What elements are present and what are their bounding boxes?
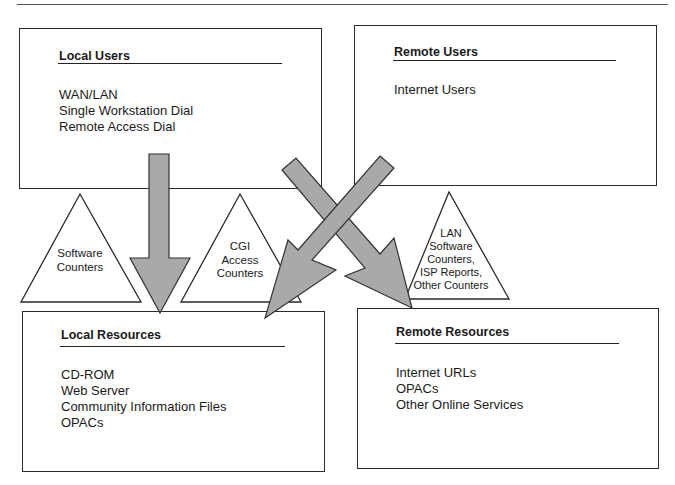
arrow-remote-users-to-local-resources [265, 156, 394, 318]
software-counters-label: Software Counters [50, 247, 110, 274]
arrow-local-users-to-local-resources [130, 154, 190, 313]
cgi-access-counters-label: CGI Access Counters [210, 240, 270, 281]
diagram-shapes [0, 0, 675, 485]
lan-counters-label: LAN Software Counters, ISP Reports, Othe… [409, 227, 493, 292]
